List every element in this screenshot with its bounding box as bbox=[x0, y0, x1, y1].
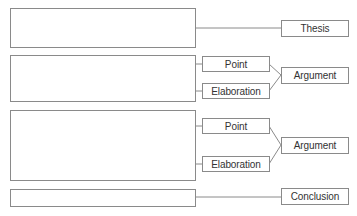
thesis-writing-box[interactable] bbox=[10, 8, 196, 48]
argument-1-elaboration-label: Elaboration bbox=[202, 83, 270, 99]
argument-2-point-label: Point bbox=[202, 118, 270, 134]
argument-2-writing-box[interactable] bbox=[10, 110, 196, 181]
conclusion-label: Conclusion bbox=[281, 188, 349, 205]
argument-1-writing-box[interactable] bbox=[10, 55, 196, 102]
argument-1-point-label: Point bbox=[202, 56, 270, 72]
argument-1-label: Argument bbox=[281, 67, 349, 84]
thesis-label: Thesis bbox=[281, 20, 349, 37]
argument-2-label: Argument bbox=[281, 137, 349, 154]
argument-2-elaboration-label: Elaboration bbox=[202, 156, 270, 172]
conclusion-writing-box[interactable] bbox=[10, 189, 196, 207]
